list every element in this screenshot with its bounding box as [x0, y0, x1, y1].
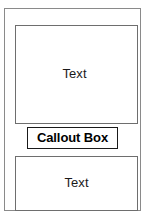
diagram-canvas: Text Callout Box Text [0, 0, 147, 223]
outer-frame: Text Callout Box Text [4, 8, 141, 211]
top-content-box-label: Text [62, 67, 86, 81]
bottom-content-box-label: Text [64, 176, 88, 190]
top-content-box[interactable]: Text [15, 25, 138, 124]
callout-box-label: Callout Box [37, 131, 108, 145]
bottom-content-box[interactable]: Text [15, 156, 138, 211]
callout-box[interactable]: Callout Box [27, 127, 118, 149]
